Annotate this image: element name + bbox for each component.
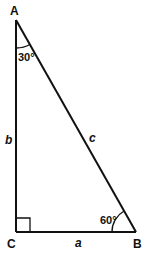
side-label-a: a <box>75 236 82 250</box>
vertex-label-c: C <box>7 237 16 251</box>
side-label-c: c <box>89 131 96 145</box>
angle-label-a: 30° <box>18 51 35 63</box>
angle-arc-a <box>16 45 30 49</box>
right-angle-marker <box>16 218 30 232</box>
vertex-label-b: B <box>133 237 142 251</box>
vertex-label-a: A <box>10 4 19 18</box>
triangle-diagram: A C B b c a 30° 60° <box>0 0 145 257</box>
side-label-b: b <box>5 133 12 147</box>
angle-label-b: 60° <box>100 214 117 226</box>
